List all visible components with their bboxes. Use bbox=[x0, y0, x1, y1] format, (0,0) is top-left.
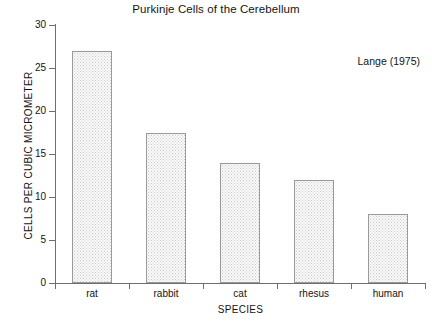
bar-cat bbox=[220, 163, 260, 283]
chart-figure: Purkinje Cells of the Cerebellum Lange (… bbox=[0, 0, 432, 330]
x-axis-line bbox=[55, 283, 426, 284]
bar-human bbox=[368, 214, 408, 283]
x-axis-category-label: cat bbox=[200, 288, 280, 299]
plot-area bbox=[55, 25, 425, 283]
chart-title: Purkinje Cells of the Cerebellum bbox=[0, 3, 432, 15]
bar-rat bbox=[72, 51, 112, 283]
x-axis-category-label: human bbox=[348, 288, 428, 299]
y-axis-tick-label: 0 bbox=[18, 278, 46, 288]
x-axis-category-label: rabbit bbox=[126, 288, 206, 299]
y-axis-title: CELLS PER CUBIC MICROMETER bbox=[23, 46, 34, 266]
bar-rhesus bbox=[294, 180, 334, 283]
x-axis-category-label: rat bbox=[52, 288, 132, 299]
x-axis-category-label: rhesus bbox=[274, 288, 354, 299]
x-axis-title: SPECIES bbox=[55, 304, 426, 315]
bar-rabbit bbox=[146, 133, 186, 284]
y-axis-tick-label: 30 bbox=[18, 20, 46, 30]
